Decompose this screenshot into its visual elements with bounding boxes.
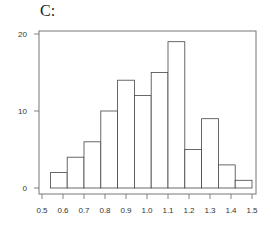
histogram-bar [218,165,235,188]
histogram-bar [84,142,101,188]
histogram-bar [168,42,185,188]
x-tick-label: 0.6 [57,206,69,215]
histogram-bar [151,73,168,189]
histogram-bar [67,157,84,188]
x-tick-label: 1.5 [246,206,258,215]
x-axis: 0.50.60.70.80.91.01.11.21.31.41.5 [36,194,258,215]
y-axis: 01020 [18,30,39,193]
histogram-bar [50,173,67,188]
histogram-bar [202,119,219,188]
histogram-bar [185,150,202,189]
x-tick-label: 1.2 [183,206,195,215]
x-tick-label: 0.5 [36,206,48,215]
x-tick-label: 0.7 [78,206,90,215]
histogram-bar [118,80,135,188]
histogram-bar [134,96,151,188]
y-tick-label: 0 [23,184,28,193]
x-tick-label: 0.8 [99,206,111,215]
histogram-chart: 01020 0.50.60.70.80.91.01.11.21.31.41.5 [0,0,271,225]
x-tick-label: 1.0 [141,206,153,215]
x-tick-label: 0.9 [120,206,132,215]
x-tick-label: 1.1 [162,206,174,215]
y-tick-label: 20 [18,30,27,39]
histogram-bar [235,180,252,188]
x-tick-label: 1.3 [204,206,216,215]
x-tick-label: 1.4 [225,206,237,215]
histogram-bar [101,111,118,188]
histogram-bars [50,42,252,188]
y-tick-label: 10 [18,107,27,116]
